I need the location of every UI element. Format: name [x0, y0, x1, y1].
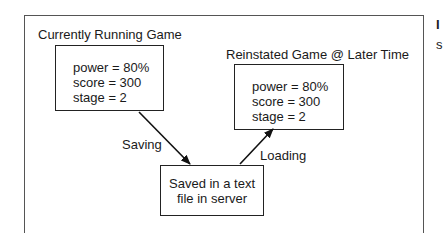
clipped-margin-text-2: s [436, 38, 443, 51]
saving-label: Saving [122, 138, 162, 151]
loading-label: Loading [260, 149, 306, 162]
flow-arrows [0, 0, 443, 233]
clipped-margin-text-1: I [436, 18, 440, 31]
